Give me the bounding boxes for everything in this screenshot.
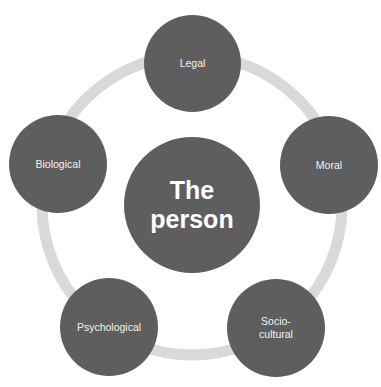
node-label-psychological: Psychological <box>77 321 141 334</box>
node-psychological: Psychological <box>60 278 158 376</box>
node-label-biological: Biological <box>36 158 81 171</box>
node-label-legal: Legal <box>180 57 206 70</box>
node-label-moral: Moral <box>316 159 342 172</box>
node-legal: Legal <box>144 15 241 112</box>
node-socio-cultural: Socio- cultural <box>227 279 325 377</box>
node-moral: Moral <box>280 116 378 214</box>
node-biological: Biological <box>9 115 107 213</box>
center-node-the-person: The person <box>124 137 260 273</box>
node-label-socio-cultural: Socio- cultural <box>259 315 293 341</box>
center-label: The person <box>150 176 233 234</box>
